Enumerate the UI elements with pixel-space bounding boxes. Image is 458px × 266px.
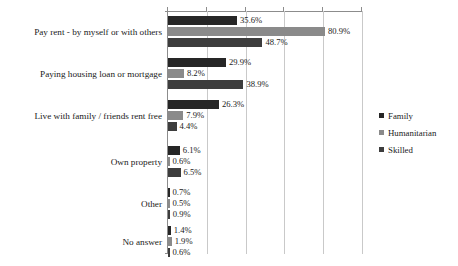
legend-swatch-icon (379, 147, 384, 152)
category-label: Other (0, 199, 162, 210)
bar-family (168, 146, 180, 155)
bar-value-label: 6.1% (180, 145, 201, 155)
bar-value-label: 1.4% (171, 225, 192, 235)
gridline (246, 11, 247, 254)
legend-label: Skilled (388, 145, 413, 155)
legend-swatch-icon (379, 113, 384, 118)
bar-value-label: 0.6% (170, 156, 191, 166)
bar-value-label: 26.3% (219, 99, 244, 109)
bar-value-label: 48.7% (262, 37, 287, 47)
bar-humanitarian (168, 69, 184, 78)
gridline (207, 11, 208, 254)
bar-value-label: 35.6% (237, 15, 262, 25)
bar-value-label: 80.9% (325, 26, 350, 36)
category-label: Own property (0, 157, 162, 168)
category-label: Live with family / friends rent free (0, 111, 162, 122)
bar-family (168, 58, 226, 67)
gridline (323, 11, 324, 254)
bar-value-label: 8.2% (184, 68, 205, 78)
legend-item: Humanitarian (379, 124, 436, 141)
bar-family (168, 16, 237, 25)
category-label: Paying housing loan or mortgage (0, 69, 162, 80)
legend-label: Family (388, 111, 413, 121)
bar-value-label: 38.9% (243, 79, 268, 89)
bar-humanitarian (168, 27, 325, 36)
plot-area (167, 11, 361, 254)
legend-swatch-icon (379, 130, 384, 135)
bar-value-label: 1.9% (172, 236, 193, 246)
bar-skilled (168, 80, 243, 89)
bar-value-label: 6.5% (181, 167, 202, 177)
bar-value-label: 0.9% (170, 209, 191, 219)
bar-chart: Pay rent - by myself or with others35.6%… (0, 0, 458, 266)
legend-item: Skilled (379, 141, 436, 158)
bar-skilled (168, 168, 181, 177)
gridline (284, 11, 285, 254)
bar-value-label: 29.9% (226, 57, 251, 67)
category-label: Pay rent - by myself or with others (0, 27, 162, 38)
bar-value-label: 0.7% (170, 187, 191, 197)
bar-value-label: 0.6% (170, 247, 191, 257)
bar-value-label: 7.9% (183, 110, 204, 120)
bar-value-label: 0.5% (170, 198, 191, 208)
bar-skilled (168, 38, 262, 47)
gridline (362, 11, 363, 254)
chart-legend: FamilyHumanitarianSkilled (379, 107, 436, 158)
bar-value-label: 4.4% (177, 121, 198, 131)
bar-humanitarian (168, 111, 183, 120)
bar-family (168, 100, 219, 109)
legend-label: Humanitarian (388, 128, 436, 138)
legend-item: Family (379, 107, 436, 124)
bar-skilled (168, 122, 177, 131)
category-label: No answer (0, 237, 162, 248)
